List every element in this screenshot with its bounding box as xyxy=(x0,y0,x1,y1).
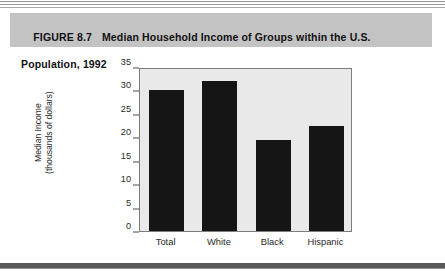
bar xyxy=(149,90,184,232)
bar xyxy=(202,81,237,231)
figure-title-line-1: FIGURE 8.7Median Household Income of Gro… xyxy=(21,17,432,58)
y-axis-title: Median Income (thousands of dollars) xyxy=(33,58,54,208)
figure-title-band: FIGURE 8.7Median Household Income of Gro… xyxy=(10,13,432,47)
x-axis-label: Total xyxy=(156,236,176,247)
top-rule-2 xyxy=(0,4,445,5)
y-axis-title-line-2: (thousands of dollars) xyxy=(44,58,55,208)
y-axis-tick-label: 20 xyxy=(121,127,131,137)
y-axis-tick-label: 30 xyxy=(121,80,131,90)
y-axis-tick-label: 35 xyxy=(121,57,131,67)
bar-series xyxy=(140,69,351,231)
bottom-rule-thin xyxy=(0,268,445,269)
plot-area xyxy=(139,68,352,232)
figure-title-text-1: Median Household Income of Groups within… xyxy=(102,31,371,43)
x-axis-label: Hispanic xyxy=(307,236,343,247)
y-axis-tick-label: 25 xyxy=(121,104,131,114)
bar-chart: Median Income (thousands of dollars) 051… xyxy=(0,56,445,251)
y-axis-tick-label: 10 xyxy=(121,174,131,184)
x-axis-category-labels: TotalWhiteBlackHispanic xyxy=(139,236,352,252)
y-axis-tick-labels: 05101520253035 xyxy=(104,62,131,232)
x-axis-label: Black xyxy=(261,236,284,247)
figure-number: FIGURE 8.7 xyxy=(33,31,92,43)
y-axis-title-line-1: Median Income xyxy=(33,58,44,208)
y-axis-tick-label: 15 xyxy=(121,151,131,161)
top-rule-1 xyxy=(0,1,445,2)
y-axis-tick-label: 0 xyxy=(126,221,131,231)
x-axis-label: White xyxy=(207,236,231,247)
y-axis-tick-label: 5 xyxy=(126,198,131,208)
top-rule-3 xyxy=(0,7,445,8)
top-decorative-rules xyxy=(0,0,445,11)
bar xyxy=(309,126,344,231)
bar xyxy=(256,140,291,231)
